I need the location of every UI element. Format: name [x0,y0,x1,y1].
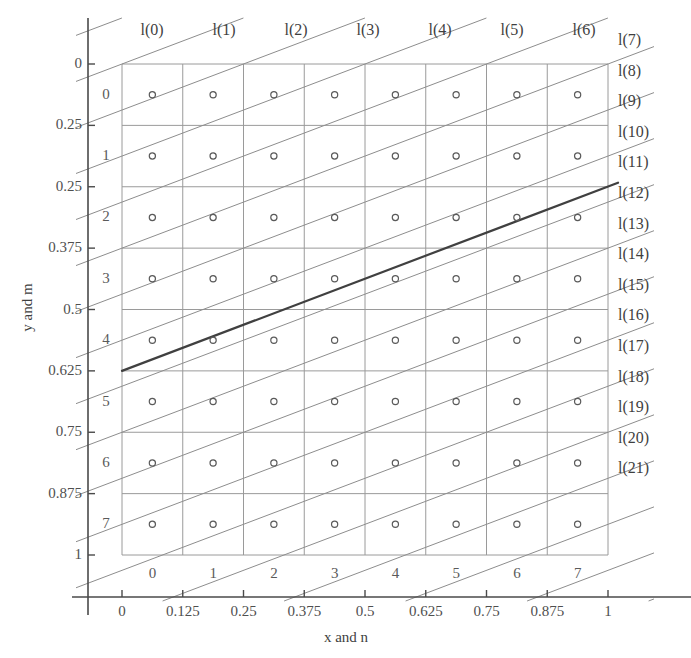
y-tick-label: 0.25 [0,179,82,194]
pixel-center-marker [271,398,277,404]
scan-line-label-right: l(17) [618,338,688,354]
pixel-center-marker [149,276,155,282]
y-tick-label: 0.25 [0,117,82,132]
pixel-center-marker [514,398,520,404]
x-axis-title: x and n [296,630,396,645]
pixel-center-marker [453,153,459,159]
pixel-center-marker [332,521,338,527]
scan-line-label-right: l(19) [618,399,688,415]
pixel-center-marker [332,214,338,220]
pixel-center-marker [271,460,277,466]
x-tick-label: 0.125 [148,604,218,619]
pixel-center-marker [149,398,155,404]
pixel-center-marker [453,92,459,98]
row-index-label: 1 [96,148,116,163]
pixel-center-marker [514,337,520,343]
pixel-center-marker [149,521,155,527]
column-index-label: 2 [259,566,289,581]
row-index-label: 2 [96,209,116,224]
row-index-label: 5 [96,394,116,409]
column-index-label: 5 [441,566,471,581]
row-index-label: 3 [96,271,116,286]
pixel-center-marker [575,460,581,466]
pixel-center-marker [575,521,581,527]
x-tick-label: 0 [87,604,157,619]
pixel-center-marker [149,153,155,159]
pixel-center-marker [210,460,216,466]
pixel-center-marker [453,276,459,282]
scan-line-label-top: l(5) [480,22,544,38]
scan-line-label-top: l(4) [408,22,472,38]
scan-line-label-top: l(2) [264,22,328,38]
pixel-center-marker [149,92,155,98]
pixel-center-marker [392,521,398,527]
pixel-center-marker [392,337,398,343]
y-tick-label: 1 [0,547,82,562]
scan-line-label-top: l(1) [192,22,256,38]
pixel-center-marker [210,521,216,527]
y-tick-label: 0.875 [0,486,82,501]
scan-line-label-top: l(0) [120,22,184,38]
pixel-center-marker [271,92,277,98]
column-index-label: 7 [563,566,593,581]
pixel-center-marker [332,460,338,466]
line-scan-grid-figure: y and m x and n 00.250.250.3750.50.6250.… [0,0,691,658]
pixel-center-marker [271,214,277,220]
scan-line-label-right: l(7) [618,32,688,48]
pixel-center-marker [149,337,155,343]
column-index-label: 3 [320,566,350,581]
pixel-center-marker [332,92,338,98]
scan-line [76,18,122,35]
pixel-center-marker [575,276,581,282]
y-tick-label: 0.375 [0,240,82,255]
scan-line-label-right: l(13) [618,216,688,232]
pixel-center-marker [514,92,520,98]
pixel-center-marker [332,398,338,404]
pixel-center-marker [392,398,398,404]
pixel-center-marker [514,276,520,282]
scan-line [406,507,654,601]
scan-line-label-right: l(15) [618,277,688,293]
scan-line-label-right: l(18) [618,369,688,385]
pixel-center-marker [575,92,581,98]
pixel-center-marker [210,153,216,159]
x-tick-label: 0.625 [391,604,461,619]
pixel-center-marker [271,153,277,159]
pixel-center-marker [392,92,398,98]
pixel-center-marker [271,521,277,527]
scan-line-label-right: l(11) [618,154,688,170]
x-tick-label: 1 [573,604,643,619]
scan-line-label-right: l(20) [618,430,688,446]
scan-line-label-right: l(16) [618,307,688,323]
pixel-center-marker [575,337,581,343]
x-tick-label: 0.75 [452,604,522,619]
scan-line [76,18,608,220]
x-tick-label: 0.25 [209,604,279,619]
pixel-center-marker [453,460,459,466]
pixel-center-marker [149,460,155,466]
pixel-center-marker [210,214,216,220]
column-index-label: 1 [198,566,228,581]
pixel-center-marker [514,521,520,527]
pixel-center-marker [575,214,581,220]
pixel-center-marker [332,337,338,343]
x-tick-label: 0.875 [512,604,582,619]
row-index-label: 6 [96,455,116,470]
y-tick-label: 0.625 [0,363,82,378]
pixel-center-marker [149,214,155,220]
pixel-center-marker [210,398,216,404]
column-index-label: 6 [502,566,532,581]
scan-line-label-right: l(14) [618,246,688,262]
pixel-center-marker [453,214,459,220]
bold-target-line [122,183,618,371]
scan-line-label-right: l(8) [618,63,688,79]
scan-line-label-top: l(3) [336,22,400,38]
pixel-center-marker [332,276,338,282]
pixel-center-marker [271,276,277,282]
pixel-center-marker [575,398,581,404]
scan-line-label-top: l(6) [552,22,616,38]
row-index-label: 4 [96,332,116,347]
pixel-center-marker [210,337,216,343]
column-index-label: 4 [380,566,410,581]
pixel-center-marker [271,337,277,343]
